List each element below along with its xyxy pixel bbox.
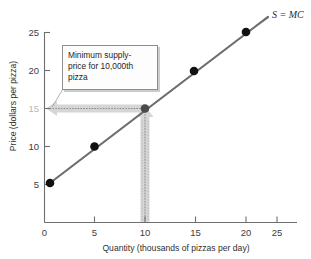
x-axis-ticks [95, 217, 278, 223]
data-point-10-15 [141, 104, 150, 113]
y-tick-label-5: 5 [34, 179, 39, 190]
supply-curve [50, 17, 268, 183]
data-point-15-20 [190, 67, 199, 76]
y-tick-label-10: 10 [28, 141, 39, 152]
data-point-0-5 [46, 179, 55, 188]
callout-text: Minimum supply- price for 10,000th pizza [68, 50, 152, 84]
x-tick-label-15: 15 [190, 227, 201, 238]
data-point-20-25 [242, 28, 251, 37]
minimum-supply-price-callout: Minimum supply- price for 10,000th pizza [62, 45, 158, 90]
y-axis-title: Price (dollars per pizza) [8, 61, 18, 151]
x-tick-label-5: 5 [92, 227, 97, 238]
legend-label-s-mc: S = MC [272, 9, 304, 20]
supply-curve-figure: 5 10 15 20 25 0 5 10 15 20 25 Quantity (… [0, 0, 311, 259]
x-tick-label-25: 25 [272, 227, 283, 238]
y-tick-label-25: 25 [28, 27, 39, 38]
y-axis-ticks [45, 33, 51, 185]
x-tick-label-10: 10 [140, 227, 151, 238]
chart-canvas: 5 10 15 20 25 0 5 10 15 20 25 Quantity (… [0, 0, 311, 259]
x-tick-label-20: 20 [241, 227, 252, 238]
y-tick-label-20: 20 [28, 65, 39, 76]
y-tick-label-15: 15 [28, 103, 39, 114]
x-axis-title: Quantity (thousands of pizzas per day) [102, 243, 249, 253]
callout-leader-line [52, 89, 63, 107]
x-tick-label-0: 0 [42, 227, 47, 238]
data-point-5-10 [90, 142, 99, 151]
